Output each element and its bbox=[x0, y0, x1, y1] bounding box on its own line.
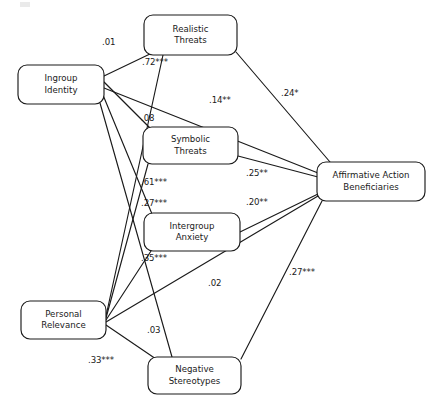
node-box-ingroup-identity[interactable] bbox=[18, 65, 104, 104]
coefficient-ingroup-to-anxiety: .27*** bbox=[141, 199, 167, 208]
coefficient-ingroup-to-stereotypes: .03 bbox=[147, 326, 160, 335]
edge-stereotypes-to-outcome bbox=[241, 201, 322, 359]
coefficient-anxiety-to-outcome: .20** bbox=[246, 198, 268, 207]
coefficient-personal-to-stereotypes: .33*** bbox=[88, 356, 114, 365]
coefficient-ingroup-to-outcome: .14** bbox=[209, 96, 231, 105]
diagram-svg bbox=[0, 0, 436, 412]
coefficient-ingroup-to-symbolic: .08 bbox=[141, 114, 154, 123]
coefficient-personal-to-symbolic: .61*** bbox=[141, 178, 167, 187]
node-box-personal-relevance[interactable] bbox=[21, 301, 106, 339]
coefficient-personal-to-anxiety: .35*** bbox=[141, 254, 167, 263]
node-box-intergroup-anxiety[interactable] bbox=[144, 213, 240, 251]
coefficient-symbolic-to-outcome: .25** bbox=[246, 169, 268, 178]
coefficient-ingroup-to-realistic: .01 bbox=[102, 38, 115, 47]
node-box-affirmative-action-beneficiaries[interactable] bbox=[317, 162, 425, 201]
coefficient-personal-to-realistic: .72*** bbox=[142, 58, 168, 67]
node-box-symbolic-threats[interactable] bbox=[143, 127, 238, 164]
path-diagram-canvas: IngroupIdentityPersonalRelevanceRealisti… bbox=[0, 0, 436, 412]
nodes-layer bbox=[18, 15, 425, 394]
node-box-realistic-threats[interactable] bbox=[144, 15, 237, 55]
coefficient-realistic-to-outcome: .24* bbox=[281, 89, 299, 98]
node-box-negative-stereotypes[interactable] bbox=[148, 357, 241, 394]
coefficient-stereotypes-to-outcome: .27*** bbox=[289, 268, 315, 277]
coefficient-personal-to-outcome: .02 bbox=[208, 279, 221, 288]
edge-personal-to-symbolic bbox=[106, 164, 148, 318]
